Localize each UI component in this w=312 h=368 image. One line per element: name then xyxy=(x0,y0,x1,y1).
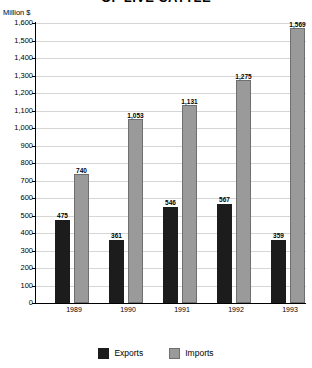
bar-group: 3591,569 xyxy=(263,23,312,303)
y-tick-label: 700 xyxy=(3,177,33,185)
bar-value-label: 567 xyxy=(219,196,230,203)
bar-imports-1990[interactable]: 1,053 xyxy=(128,119,143,303)
bar-group: 5461,131 xyxy=(155,23,209,303)
y-tick-label: 100 xyxy=(3,282,33,290)
bar-exports-1993[interactable]: 359 xyxy=(271,240,286,303)
x-tick-label-1993: 1993 xyxy=(265,306,312,314)
chart-legend: ExportsImports xyxy=(0,348,312,359)
bar-value-label: 1,053 xyxy=(127,112,143,119)
bar-value-label: 740 xyxy=(76,167,87,174)
y-tick-label: 400 xyxy=(3,229,33,237)
bar-chart: OF LIVE CATTLE Million $ 010020030040050… xyxy=(0,0,312,368)
legend-swatch-imports xyxy=(169,348,180,359)
bar-imports-1989[interactable]: 740 xyxy=(74,174,89,304)
y-tick-label: 500 xyxy=(3,212,33,220)
y-tick-label: 1,300 xyxy=(3,72,33,80)
legend-swatch-exports xyxy=(98,348,109,359)
y-tick-label: 800 xyxy=(3,159,33,167)
legend-item-exports[interactable]: Exports xyxy=(98,348,143,359)
bar-value-label: 361 xyxy=(111,232,122,239)
bar-group: 5671,275 xyxy=(209,23,263,303)
y-tick-label: 1,400 xyxy=(3,54,33,62)
plot-area: 4757403611,0535461,1315671,2753591,569 xyxy=(36,23,306,303)
y-tick-label: 1,500 xyxy=(3,37,33,45)
bar-group: 475740 xyxy=(47,23,101,303)
y-tick-label: 900 xyxy=(3,142,33,150)
bar-value-label: 1,569 xyxy=(289,21,305,28)
legend-item-imports[interactable]: Imports xyxy=(169,348,213,359)
bar-imports-1993[interactable]: 1,569 xyxy=(290,28,305,303)
chart-title: OF LIVE CATTLE xyxy=(0,0,312,4)
bar-value-label: 1,275 xyxy=(235,73,251,80)
x-axis-line xyxy=(35,303,306,304)
y-axis-tick-labels: 01002003004005006007008009001,0001,1001,… xyxy=(0,0,33,368)
legend-label: Exports xyxy=(114,349,143,358)
y-tick-label: 1,100 xyxy=(3,107,33,115)
bar-exports-1989[interactable]: 475 xyxy=(55,220,70,303)
y-tick-label: 200 xyxy=(3,264,33,272)
bar-exports-1990[interactable]: 361 xyxy=(109,240,124,303)
bar-value-label: 546 xyxy=(165,199,176,206)
y-tick-label: 0 xyxy=(3,299,33,307)
y-tick-label: 1,000 xyxy=(3,124,33,132)
bar-imports-1992[interactable]: 1,275 xyxy=(236,80,251,303)
y-tick-label: 300 xyxy=(3,247,33,255)
x-tick-label-1991: 1991 xyxy=(157,306,207,314)
bar-value-label: 475 xyxy=(57,212,68,219)
x-tick-label-1989: 1989 xyxy=(49,306,99,314)
bar-value-label: 359 xyxy=(273,232,284,239)
x-tick-label-1990: 1990 xyxy=(103,306,153,314)
y-tick-label: 1,600 xyxy=(3,19,33,27)
bar-exports-1992[interactable]: 567 xyxy=(217,204,232,303)
bar-imports-1991[interactable]: 1,131 xyxy=(182,105,197,303)
bar-value-label: 1,131 xyxy=(181,98,197,105)
y-tick-label: 1,200 xyxy=(3,89,33,97)
bar-group: 3611,053 xyxy=(101,23,155,303)
x-tick-label-1992: 1992 xyxy=(211,306,261,314)
y-tick-label: 600 xyxy=(3,194,33,202)
legend-label: Imports xyxy=(185,349,213,358)
bar-exports-1991[interactable]: 546 xyxy=(163,207,178,303)
